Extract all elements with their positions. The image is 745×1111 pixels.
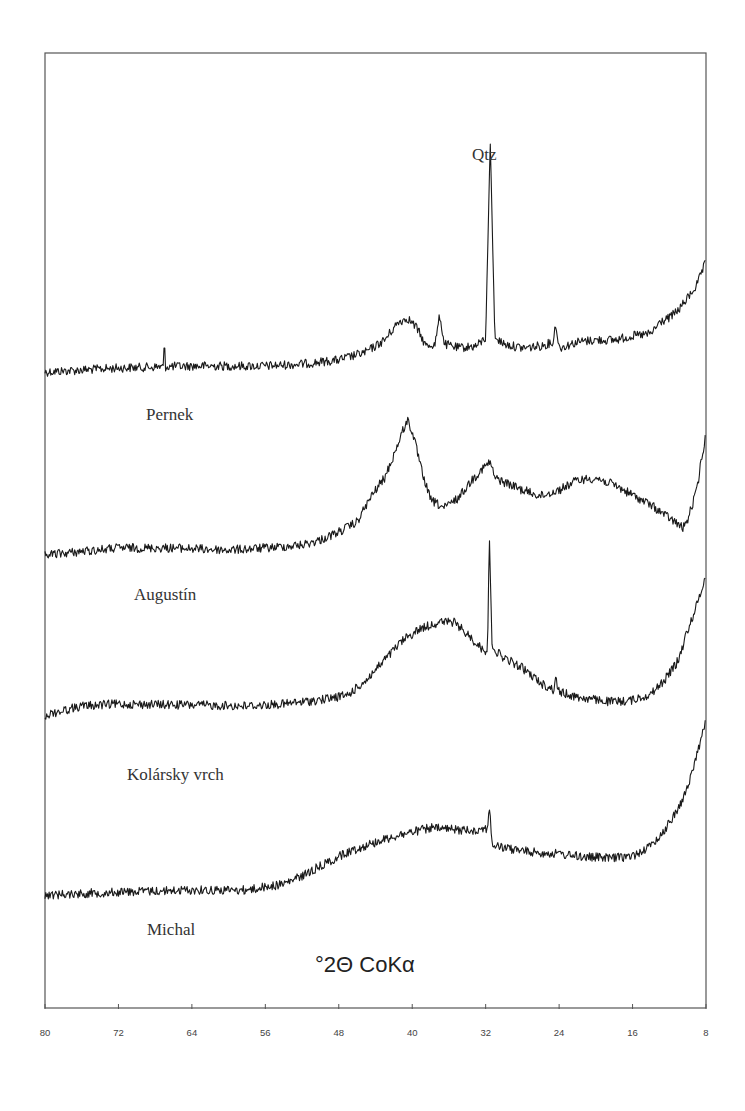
plot-frame xyxy=(45,53,706,1008)
x-tick-label: 64 xyxy=(187,1027,198,1038)
x-tick-label: 40 xyxy=(407,1027,418,1038)
series-label-kolarsky-vrch: Kolársky vrch xyxy=(127,765,224,784)
x-tick-label: 32 xyxy=(480,1027,491,1038)
x-tick-label: 24 xyxy=(554,1027,565,1038)
x-tick-label: 56 xyxy=(260,1027,271,1038)
x-tick-label: 8 xyxy=(703,1027,708,1038)
x-tick-label: 16 xyxy=(627,1027,638,1038)
x-axis-title: °2Θ CoKα xyxy=(315,952,415,977)
series-label-michal: Michal xyxy=(147,920,195,939)
trace-pernek xyxy=(45,144,705,376)
x-tick-label: 80 xyxy=(40,1027,51,1038)
series-label-augustin: Augustín xyxy=(134,585,197,604)
series-label-pernek: Pernek xyxy=(146,405,194,424)
trace-kol-rsky-vrch xyxy=(45,541,705,720)
trace-michal xyxy=(45,720,705,899)
traces-group xyxy=(45,144,705,899)
x-tick-label: 72 xyxy=(113,1027,124,1038)
trace-august-n xyxy=(45,417,705,558)
xrd-chart: 8072645648403224168 Qtz Pernek Augustín … xyxy=(0,0,745,1111)
x-tick-label: 48 xyxy=(333,1027,344,1038)
x-axis-ticks: 8072645648403224168 xyxy=(40,1004,709,1038)
annotation-qtz: Qtz xyxy=(472,145,497,164)
